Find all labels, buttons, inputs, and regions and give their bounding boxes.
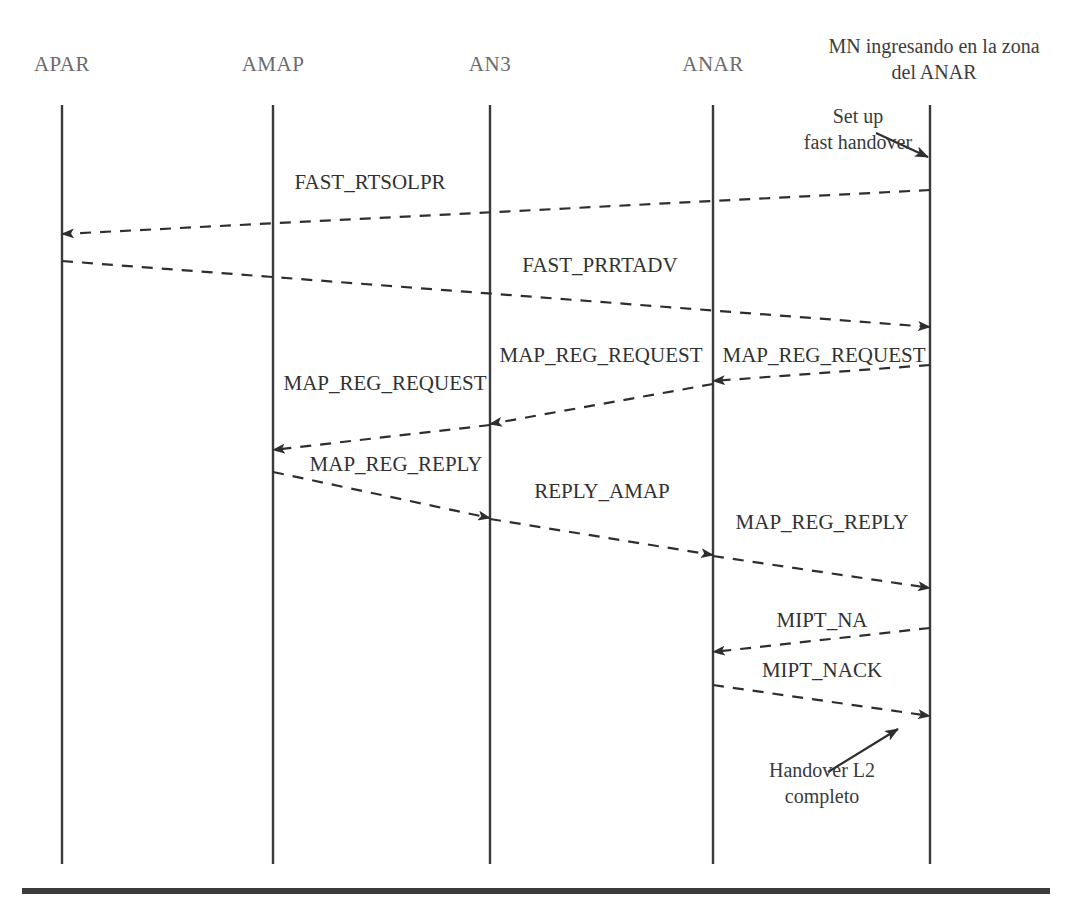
message-label-map-reg-request-anar-an3: MAP_REG_REQUEST <box>499 343 702 368</box>
annotation-setup-line1: Set up <box>773 103 943 129</box>
lifelines-group <box>62 105 930 864</box>
message-label-fast-prrtadv: FAST_PRRTADV <box>522 253 677 278</box>
message-label-map-reg-request-an3-amap: MAP_REG_REQUEST <box>283 371 486 396</box>
message-arrow-map-reg-reply-anar-mn <box>713 556 930 588</box>
annotation-handover-l2-completo: Handover L2 completo <box>727 757 917 809</box>
message-label-mipt-na: MIPT_NA <box>776 608 867 633</box>
annotation-setup-line2: fast handover <box>773 129 943 155</box>
lifeline-header-amap: AMAP <box>242 52 305 77</box>
annotation-setup-fast-handover: Set up fast handover <box>773 103 943 155</box>
lifeline-header-mn: MN ingresando en la zona del ANAR <box>824 33 1044 85</box>
annotation-handover-line1: Handover L2 <box>727 757 917 783</box>
messages-group <box>62 190 930 716</box>
annotation-handover-line2: completo <box>727 783 917 809</box>
lifeline-header-an3: AN3 <box>469 52 511 77</box>
message-arrow-map-reg-request-an3-amap <box>273 425 490 450</box>
message-arrow-reply-amap <box>490 519 713 555</box>
message-arrow-map-reg-reply-amap-an3 <box>273 472 490 518</box>
message-label-reply-amap: REPLY_AMAP <box>534 479 670 504</box>
message-arrow-fast-rtsolpr <box>62 190 930 234</box>
message-label-mipt-nack: MIPT_NACK <box>762 658 882 683</box>
message-arrow-map-reg-request-anar-an3 <box>490 384 713 424</box>
message-label-map-reg-reply-anar-mn: MAP_REG_REPLY <box>736 510 909 535</box>
sequence-diagram-canvas: APAR AMAP AN3 ANAR MN ingresando en la z… <box>0 0 1072 915</box>
message-arrow-mipt-nack <box>713 685 930 716</box>
bottom-rule <box>22 888 1050 894</box>
message-label-fast-rtsolpr: FAST_RTSOLPR <box>294 170 445 195</box>
message-arrow-fast-prrtadv <box>62 261 930 327</box>
lifeline-header-anar: ANAR <box>682 52 744 77</box>
message-label-map-reg-request-mn-anar: MAP_REG_REQUEST <box>722 343 925 368</box>
lifeline-header-apar: APAR <box>34 52 90 77</box>
message-label-map-reg-reply-amap-an3: MAP_REG_REPLY <box>310 452 483 477</box>
